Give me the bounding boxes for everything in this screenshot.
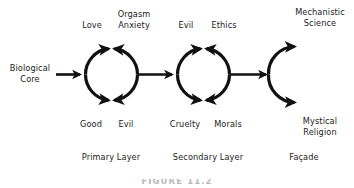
secondary-top-left-label: Evil: [170, 20, 202, 31]
secondary-bottom-left-label: Cruelty: [163, 119, 207, 130]
primary-layer-label: Primary Layer: [75, 152, 147, 163]
primary-top-left-label: Love: [72, 20, 112, 31]
biological-core-label: Biological Core: [4, 63, 56, 84]
secondary-layer-label: Secondary Layer: [163, 152, 253, 163]
figure-caption-text: FIGURE 11.2: [0, 179, 354, 186]
facade-bottom-label: Mystical Religion: [290, 116, 350, 137]
primary-bottom-left-label: Good: [73, 119, 109, 130]
secondary-bottom-right-label: Morals: [207, 119, 249, 130]
facade-top-label: Mechanistic Science: [288, 7, 352, 28]
primary-layer-circle: [86, 49, 138, 101]
secondary-top-right-label: Ethics: [203, 20, 245, 31]
primary-top-right-label: Orgasm Anxiety: [110, 9, 158, 30]
figure-diagram: Biological Core Love Orgasm Anxiety Good…: [0, 0, 354, 188]
figure-caption-clipped: FIGURE 11.2: [0, 179, 354, 188]
facade-arc: [268, 47, 294, 103]
primary-bottom-right-label: Evil: [110, 119, 142, 130]
secondary-layer-circle: [178, 49, 230, 101]
facade-layer-label: Façade: [278, 152, 330, 163]
